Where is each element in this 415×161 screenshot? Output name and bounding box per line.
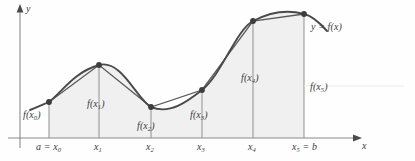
x-axis-arrowhead	[353, 134, 362, 141]
node-x2	[148, 104, 154, 110]
node-x5	[301, 11, 307, 17]
tick-label-x3: x3	[197, 142, 205, 152]
node-x1	[96, 62, 102, 68]
trapezoidal-rule-figure: y x y = f(x) a = x0 x1 x2 x3 x4 x5 = b f…	[0, 0, 415, 161]
x-axis-label: x	[362, 141, 367, 151]
tick-label-x5: x5 = b	[292, 142, 317, 152]
tick-label-x4: x4	[248, 142, 256, 152]
value-label-fx1: f(x1)	[87, 99, 105, 109]
tick-label-x1: x1	[94, 142, 102, 152]
value-label-fx2: f(x2)	[137, 121, 155, 131]
node-x0	[46, 99, 52, 105]
y-axis-arrowhead	[17, 4, 24, 13]
y-axis-label: y	[26, 4, 31, 14]
value-label-fx4: f(x4)	[241, 73, 259, 83]
shaded-region	[49, 12, 304, 138]
node-x3	[199, 87, 205, 93]
value-label-fx5: f(x5)	[310, 82, 328, 92]
curve-equation-label: y = f(x)	[311, 22, 342, 32]
figure-canvas	[0, 0, 415, 161]
tick-label-x2: x2	[146, 142, 154, 152]
tick-label-x0: a = x0	[36, 142, 61, 152]
value-label-fx0: f(x0)	[23, 110, 41, 120]
node-x4	[250, 18, 256, 24]
value-label-fx3: f(x3)	[190, 110, 208, 120]
